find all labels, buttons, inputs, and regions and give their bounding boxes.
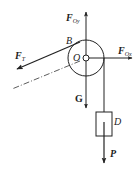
label-force-ox: FOx (117, 45, 132, 57)
label-block-d: D (113, 116, 122, 127)
label-gravity: G (75, 93, 83, 104)
pulley-free-body-diagram: FOy B O FOx FT G D P (0, 0, 140, 174)
label-point-b: B (66, 35, 72, 46)
tension-arrow (17, 42, 80, 69)
label-load-p: P (110, 148, 117, 159)
label-force-oy: FOy (65, 12, 80, 24)
pulley-hub (83, 55, 89, 61)
label-force-t: FT (14, 50, 26, 62)
label-point-o: O (73, 52, 80, 63)
